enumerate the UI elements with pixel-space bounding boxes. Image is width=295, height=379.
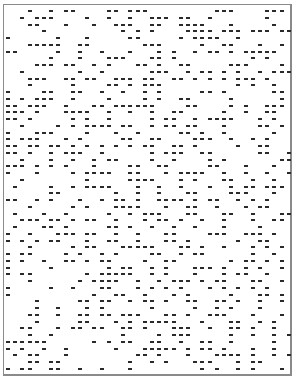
dash-mark: [208, 71, 212, 73]
dash-mark: [64, 78, 68, 80]
dash-mark: [150, 226, 154, 228]
dash-mark: [179, 98, 183, 100]
dash-mark: [49, 145, 53, 147]
dash-mark: [150, 138, 154, 140]
dash-mark: [157, 64, 161, 66]
dash-mark: [272, 334, 276, 336]
dash-mark: [280, 125, 284, 127]
dash-mark: [107, 159, 111, 161]
dash-mark: [251, 368, 255, 370]
dash-mark: [35, 354, 39, 356]
dash-mark: [49, 334, 53, 336]
dash-mark: [35, 105, 39, 107]
dash-mark: [251, 78, 255, 80]
dash-mark: [186, 132, 190, 134]
dash-mark: [6, 98, 10, 100]
dash-mark: [229, 341, 233, 343]
dash-mark: [172, 51, 176, 53]
dash-mark: [114, 145, 118, 147]
dash-mark: [172, 152, 176, 154]
dash-mark: [164, 300, 168, 302]
dash-mark: [200, 341, 204, 343]
dash-mark: [251, 327, 255, 329]
dash-mark: [215, 314, 219, 316]
dash-mark: [251, 84, 255, 86]
dash-mark: [193, 361, 197, 363]
dash-mark: [222, 111, 226, 113]
dash-mark: [20, 138, 24, 140]
dash-mark: [193, 51, 197, 53]
dash-mark: [35, 44, 39, 46]
dash-mark: [157, 354, 161, 356]
dash-mark: [128, 51, 132, 53]
dash-mark: [164, 219, 168, 221]
dash-mark: [6, 273, 10, 275]
dash-mark: [136, 10, 140, 12]
dash-mark: [287, 213, 291, 215]
dash-mark: [6, 165, 10, 167]
dash-mark: [280, 267, 284, 269]
dash-mark: [136, 233, 140, 235]
dash-mark: [100, 152, 104, 154]
dash-mark: [85, 111, 89, 113]
dash-mark: [49, 186, 53, 188]
dash-mark: [150, 267, 154, 269]
dash-mark: [85, 206, 89, 208]
dash-mark: [136, 199, 140, 201]
dash-mark: [128, 37, 132, 39]
dash-mark: [157, 341, 161, 343]
dash-mark: [85, 37, 89, 39]
dash-mark: [186, 206, 190, 208]
dash-mark: [107, 213, 111, 215]
dash-mark: [258, 307, 262, 309]
dash-mark: [229, 44, 233, 46]
dash-mark: [272, 105, 276, 107]
dash-mark: [28, 145, 32, 147]
dash-mark: [265, 273, 269, 275]
dash-mark: [236, 37, 240, 39]
dash-mark: [128, 145, 132, 147]
dash-mark: [107, 84, 111, 86]
dash-mark: [229, 138, 233, 140]
dash-mark: [136, 192, 140, 194]
dash-mark: [222, 78, 226, 80]
dash-mark: [114, 294, 118, 296]
dash-mark: [6, 118, 10, 120]
dash-mark: [172, 159, 176, 161]
dash-mark: [13, 341, 17, 343]
dash-mark: [236, 321, 240, 323]
dash-mark: [272, 186, 276, 188]
dash-mark: [265, 30, 269, 32]
dash-mark: [251, 361, 255, 363]
dash-mark: [78, 327, 82, 329]
dash-mark: [193, 105, 197, 107]
dash-mark: [157, 321, 161, 323]
dash-mark: [35, 240, 39, 242]
dash-mark: [6, 132, 10, 134]
dash-mark: [121, 334, 125, 336]
dash-mark: [236, 78, 240, 80]
dash-mark: [150, 159, 154, 161]
dash-mark: [265, 145, 269, 147]
dash-mark: [20, 253, 24, 255]
dash-mark: [280, 260, 284, 262]
dash-mark: [258, 206, 262, 208]
dash-mark: [64, 226, 68, 228]
dash-mark: [251, 213, 255, 215]
dash-mark: [150, 105, 154, 107]
dash-mark: [100, 199, 104, 201]
dash-mark: [172, 260, 176, 262]
dash-mark: [6, 233, 10, 235]
dash-mark: [13, 165, 17, 167]
dash-mark: [157, 71, 161, 73]
dash-mark: [71, 98, 75, 100]
dash-mark: [107, 125, 111, 127]
dash-mark: [92, 172, 96, 174]
dash-mark: [164, 267, 168, 269]
dash-mark: [244, 165, 248, 167]
dash-mark: [13, 111, 17, 113]
dash-mark: [28, 206, 32, 208]
dash-mark: [186, 280, 190, 282]
dash-mark: [272, 348, 276, 350]
dash-mark: [179, 64, 183, 66]
